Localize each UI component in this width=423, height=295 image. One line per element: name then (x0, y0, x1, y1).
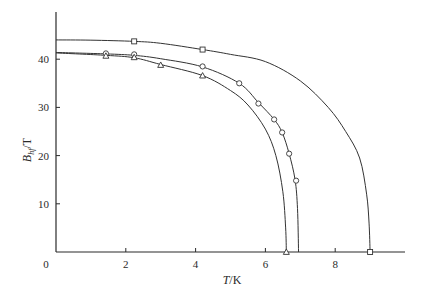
x-tick-label: 0 (43, 258, 49, 270)
curve-circle (56, 52, 299, 252)
curve-triangle (56, 53, 286, 252)
square-data-point (368, 250, 373, 255)
circle-data-point (280, 130, 285, 135)
curves (56, 40, 370, 252)
circle-data-point (256, 101, 261, 106)
x-axis-label: T/K (223, 273, 242, 287)
x-axis-label-unit: /K (229, 273, 241, 287)
y-tick-label: 40 (38, 53, 50, 65)
curve-square (56, 40, 370, 252)
axes (56, 12, 405, 252)
circle-data-point (237, 81, 242, 86)
x-tick-label: 6 (263, 258, 269, 270)
y-tick-label: 30 (38, 101, 50, 113)
markers (103, 39, 373, 255)
square-data-point (200, 47, 205, 52)
x-ticks: 02468 (43, 248, 338, 270)
circle-data-point (200, 64, 205, 69)
y-tick-label: 10 (38, 198, 50, 210)
circle-data-point (287, 151, 292, 156)
circle-data-point (272, 117, 277, 122)
y-ticks: 10203040 (38, 53, 60, 210)
y-axis-label-unit: /T (20, 137, 34, 148)
y-axis-label: Bhf/T (20, 137, 36, 162)
circle-data-point (294, 178, 299, 183)
x-tick-label: 8 (332, 258, 338, 270)
square-data-point (132, 39, 137, 44)
y-tick-label: 20 (38, 150, 50, 162)
x-tick-label: 2 (123, 258, 129, 270)
chart: 02468 10203040 Bhf/T T/K (0, 0, 423, 295)
x-tick-label: 4 (193, 258, 199, 270)
